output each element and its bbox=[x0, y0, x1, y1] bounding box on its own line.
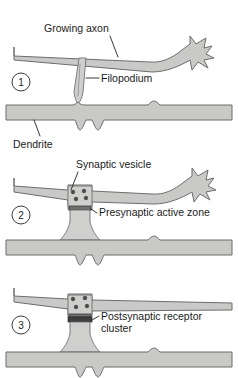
leader-presynaptic-active-zone bbox=[91, 209, 97, 213]
synaptic-vesicle bbox=[71, 190, 75, 194]
synaptic-vesicle bbox=[82, 189, 86, 193]
panel-1: Growing axon Filopodium Dendrite 1 bbox=[6, 22, 232, 150]
synaptic-vesicle bbox=[74, 305, 78, 309]
panel-2: Synaptic vesicle Presynaptic active zone… bbox=[6, 158, 232, 265]
dendrite-shape-panel-1 bbox=[6, 101, 232, 130]
synaptic-vesicle bbox=[71, 297, 75, 301]
synaptic-vesicle bbox=[74, 197, 78, 201]
figure-container: Growing axon Filopodium Dendrite 1 bbox=[0, 0, 238, 378]
leader-postsynaptic-receptor-cluster bbox=[92, 316, 99, 320]
dendrite-shape-panel-3 bbox=[6, 348, 232, 377]
dendritic-spine-panel-3 bbox=[60, 322, 100, 352]
panel-number-2: 2 bbox=[18, 210, 24, 221]
panel-number-3: 3 bbox=[18, 320, 24, 331]
leader-growing-axon bbox=[110, 36, 118, 57]
label-synaptic-vesicle: Synaptic vesicle bbox=[76, 158, 151, 170]
panel-number-1: 1 bbox=[18, 77, 24, 88]
label-postsynaptic-receptor-cluster-line-2: cluster bbox=[101, 322, 132, 334]
synaptic-vesicle bbox=[85, 304, 89, 308]
label-presynaptic-active-zone: Presynaptic active zone bbox=[99, 206, 210, 218]
label-filopodium: Filopodium bbox=[101, 72, 153, 84]
label-dendrite: Dendrite bbox=[13, 138, 53, 150]
axon-shape-panel-2 bbox=[14, 168, 216, 206]
dendritic-spine-panel-2 bbox=[60, 210, 100, 240]
leader-dendrite bbox=[34, 120, 40, 136]
axon-shape-panel-1 bbox=[14, 36, 214, 72]
postsynaptic-receptor-cluster-band bbox=[68, 317, 92, 322]
panel-3: Postsynaptic receptor cluster 3 bbox=[6, 288, 232, 377]
synapse-formation-diagram: Growing axon Filopodium Dendrite 1 bbox=[0, 0, 238, 378]
presynaptic-active-zone-band bbox=[69, 314, 91, 317]
synaptic-vesicle bbox=[84, 196, 88, 200]
presynaptic-active-zone-band bbox=[69, 206, 91, 210]
label-postsynaptic-receptor-cluster-line-1: Postsynaptic receptor bbox=[101, 310, 202, 322]
synaptic-vesicle bbox=[83, 296, 87, 300]
dendrite-shape-panel-2 bbox=[6, 236, 232, 265]
label-growing-axon: Growing axon bbox=[44, 22, 109, 34]
